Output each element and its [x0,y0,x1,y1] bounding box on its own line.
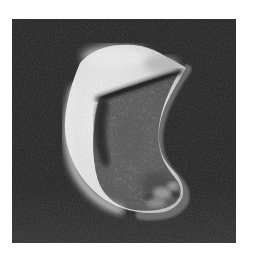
page [0,0,253,264]
film-grain-light [12,19,236,243]
specimen-photo-canvas [12,19,236,243]
specimen-photo [12,19,236,243]
